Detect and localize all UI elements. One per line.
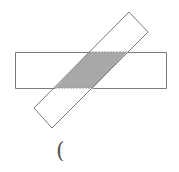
answer-blank-paren: ( bbox=[56, 140, 65, 162]
diagram-canvas bbox=[0, 0, 179, 172]
overlap-region bbox=[55, 52, 127, 88]
